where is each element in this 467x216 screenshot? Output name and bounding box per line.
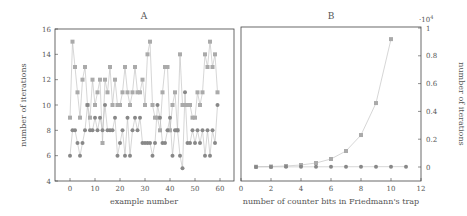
- chart-b-ticks: 02468101200.20.40.60.81: [239, 25, 438, 194]
- data-point-square: [208, 40, 212, 44]
- data-point-square: [108, 65, 112, 69]
- data-point-circle: [178, 154, 182, 158]
- data-point-circle: [193, 141, 197, 145]
- data-point-square: [216, 90, 220, 94]
- data-point-circle: [113, 116, 117, 120]
- data-point-circle: [208, 154, 212, 158]
- data-point-square: [151, 103, 155, 107]
- data-point-square: [374, 101, 378, 105]
- data-point-circle: [183, 90, 187, 94]
- y-tick-label: 14: [42, 51, 51, 59]
- data-point-square: [389, 37, 393, 41]
- chart-b-ylabel: number of iterations: [457, 62, 466, 145]
- x-tick-label: 10: [387, 185, 396, 193]
- x-tick-label: 8: [359, 185, 363, 193]
- data-point-circle: [123, 154, 127, 158]
- data-point-circle: [191, 128, 195, 132]
- data-point-circle: [158, 116, 162, 120]
- data-point-square: [81, 78, 85, 82]
- x-tick-label: 50: [191, 185, 200, 193]
- data-point-square: [138, 90, 142, 94]
- data-point-circle: [284, 165, 288, 169]
- data-point-circle: [374, 165, 378, 169]
- data-point-square: [68, 116, 72, 120]
- chart-a-title: A: [140, 11, 148, 21]
- x-tick-label: 0: [68, 185, 72, 193]
- x-tick-label: 30: [141, 185, 150, 193]
- data-point-square: [141, 78, 145, 82]
- data-point-square: [73, 65, 77, 69]
- data-point-square: [101, 141, 105, 145]
- data-point-circle: [96, 128, 100, 132]
- data-point-square: [98, 78, 102, 82]
- chart-panel-b: B 02468101200.20.40.60.81 ·104 number of…: [239, 11, 466, 206]
- data-point-circle: [198, 141, 202, 145]
- x-tick-label: 12: [417, 185, 426, 193]
- chart-b-xlabel: number of counter bits in Friedmann's tr…: [243, 197, 419, 206]
- data-point-square: [133, 65, 137, 69]
- y-tick-label: 0.2: [426, 136, 437, 144]
- data-point-circle: [118, 141, 122, 145]
- data-point-square: [166, 65, 170, 69]
- data-point-circle: [81, 141, 85, 145]
- data-point-square: [193, 116, 197, 120]
- data-point-square: [96, 90, 100, 94]
- y-tick-label: 10: [42, 102, 51, 110]
- data-point-circle: [86, 103, 90, 107]
- x-tick-label: 60: [216, 185, 225, 193]
- data-point-square: [78, 116, 82, 120]
- series-line-squares: [256, 39, 391, 167]
- x-tick-label: 6: [329, 185, 334, 193]
- data-point-circle: [269, 165, 273, 169]
- chart-a-ticks: 010203040506046810121416: [42, 26, 224, 194]
- data-point-square: [161, 90, 165, 94]
- data-point-square: [173, 90, 177, 94]
- data-point-square: [118, 103, 122, 107]
- data-point-circle: [111, 128, 115, 132]
- data-point-square: [111, 103, 115, 107]
- chart-a-series: [68, 40, 220, 171]
- y-tick-label: 8: [47, 127, 51, 135]
- y-tick-label: 4: [47, 178, 52, 186]
- data-point-circle: [299, 165, 303, 169]
- data-point-circle: [196, 128, 200, 132]
- data-point-square: [171, 103, 175, 107]
- data-point-square: [123, 65, 127, 69]
- figure: A 010203040506046810121416 example numbe…: [0, 0, 467, 216]
- data-point-square: [88, 116, 92, 120]
- data-point-square: [83, 65, 87, 69]
- data-point-circle: [166, 128, 170, 132]
- y-tick-label: 0.8: [426, 52, 437, 60]
- data-point-circle: [359, 165, 363, 169]
- data-point-square: [344, 149, 348, 153]
- data-point-circle: [101, 128, 105, 132]
- data-point-square: [93, 103, 97, 107]
- chart-a-xlabel: example number: [110, 197, 178, 206]
- x-tick-label: 2: [269, 185, 273, 193]
- data-point-square: [76, 90, 80, 94]
- data-point-circle: [136, 128, 140, 132]
- data-point-circle: [98, 116, 102, 120]
- x-tick-label: 20: [116, 185, 125, 193]
- data-point-circle: [344, 165, 348, 169]
- data-point-circle: [404, 165, 408, 169]
- chart-a-ylabel: number of iterations: [19, 63, 28, 146]
- x-tick-label: 40: [166, 185, 175, 193]
- data-point-circle: [91, 128, 95, 132]
- data-point-square: [113, 78, 117, 82]
- data-point-circle: [93, 116, 97, 120]
- data-point-circle: [203, 154, 207, 158]
- data-point-square: [198, 103, 202, 107]
- data-point-circle: [163, 141, 167, 145]
- data-point-circle: [314, 165, 318, 169]
- data-point-circle: [153, 141, 157, 145]
- data-point-square: [196, 90, 200, 94]
- data-point-circle: [213, 141, 217, 145]
- chart-b-multiplier: ·104: [419, 14, 433, 24]
- data-point-square: [71, 40, 75, 44]
- data-point-circle: [211, 128, 215, 132]
- data-point-circle: [83, 128, 87, 132]
- data-point-square: [203, 52, 207, 56]
- data-point-circle: [168, 116, 172, 120]
- data-point-circle: [128, 154, 132, 158]
